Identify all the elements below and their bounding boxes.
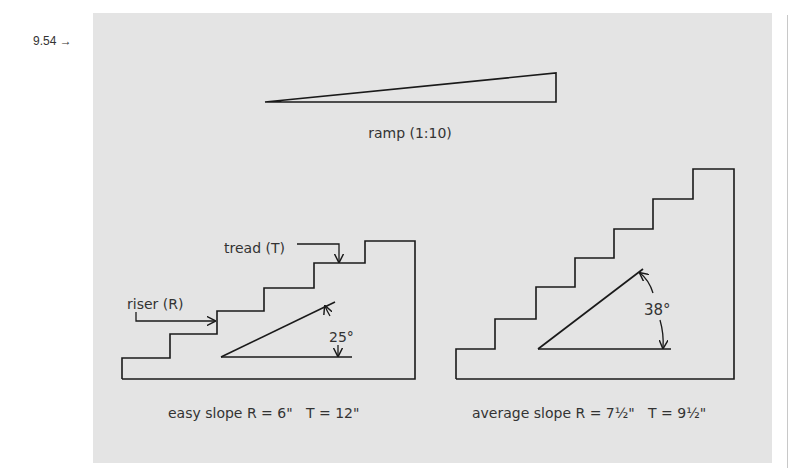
average-angle-arrow-top — [640, 273, 653, 293]
ramp-drawing — [265, 73, 556, 102]
average-angle-label: 38° — [644, 301, 671, 319]
average-stair-drawing — [456, 169, 734, 379]
easy-slope-caption: easy slope R = 6" T = 12" — [168, 405, 359, 421]
tread-label: tread (T) — [224, 240, 285, 256]
average-slope-caption: average slope R = 7½" T = 9½" — [472, 405, 706, 421]
easy-angle-arrow-top — [325, 306, 330, 316]
tread-leader-arrow — [297, 244, 339, 262]
average-slope-line — [538, 269, 643, 349]
easy-angle-label: 25° — [329, 329, 354, 345]
ramp-triangle — [265, 73, 556, 102]
average-stair-profile — [456, 169, 734, 379]
average-angle-arrow-bottom — [660, 320, 663, 348]
ramp-label: ramp (1:10) — [368, 125, 452, 141]
stair-ramp-diagram: ramp (1:10) tread (T) riser (R) 25° easy… — [0, 0, 799, 468]
riser-label: riser (R) — [127, 296, 183, 312]
riser-leader-arrow — [136, 312, 215, 321]
